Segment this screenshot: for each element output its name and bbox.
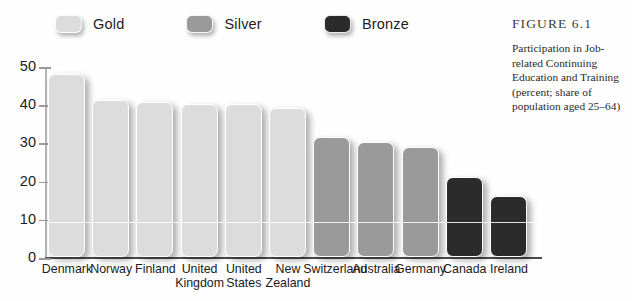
legend-label: Bronze [362,16,409,32]
figure-caption: FIGURE 6.1 Participation in Job-related … [512,16,630,114]
figure-caption-body: Participation in Job-related Continuing … [512,41,630,114]
bar-slot [136,66,173,257]
y-tick-label: 0 [8,249,36,265]
x-label-line: Ireland [480,262,538,276]
bar-united-kingdom [181,104,218,257]
figure-caption-title: FIGURE 6.1 [512,16,630,32]
bar-new-zealand [269,108,306,257]
legend-item-bronze: Bronze [324,15,409,33]
bar-slot [313,66,350,257]
bar-switzerland [313,137,350,257]
bar-ireland [490,196,527,257]
y-tick-mark [39,258,51,260]
x-label-line: Zealand [259,276,317,290]
bar-denmark [48,74,85,257]
y-tick-label: 10 [8,211,36,227]
bar-norway [92,100,129,257]
y-tick-label: 50 [8,58,36,74]
bar-slot [48,66,85,257]
bar-slot [402,66,439,257]
bar-slot [446,66,483,257]
soft-gridline [47,222,542,223]
bar-slot [357,66,394,257]
legend-item-gold: Gold [55,15,124,33]
chart-legend: GoldSilverBronze [55,15,471,33]
y-tick-label: 20 [8,173,36,189]
bar-united-states [225,104,262,257]
y-axis-line [45,67,47,258]
bar-slot [225,66,262,257]
legend-swatch-gold [55,15,82,33]
figure-container: GoldSilverBronze 01020304050 DenmarkNorw… [0,0,632,301]
x-label-ireland: Ireland [480,262,538,276]
bar-slot [269,66,306,257]
bar-canada [446,177,483,257]
legend-label: Silver [224,16,261,32]
x-axis-labels: DenmarkNorwayFinlandUnitedKingdomUnitedS… [48,262,544,300]
y-tick-label: 30 [8,134,36,150]
bar-australia [357,142,394,257]
bar-germany [402,147,439,257]
plot-area: 01020304050 [40,60,542,260]
bar-slot [181,66,218,257]
legend-item-silver: Silver [186,15,261,33]
bar-series [48,66,542,257]
legend-swatch-silver [186,15,213,33]
bar-finland [136,102,173,257]
bar-slot [92,66,129,257]
legend-swatch-bronze [324,15,351,33]
legend-label: Gold [93,16,124,32]
y-tick-label: 40 [8,96,36,112]
x-axis-line [45,257,542,259]
